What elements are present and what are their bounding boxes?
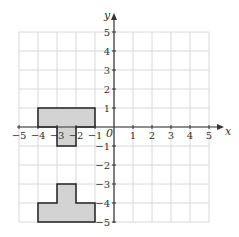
x-tick-label: 5: [206, 130, 212, 141]
x-axis-arrow-icon: [217, 124, 224, 130]
x-tick-label: 3: [168, 130, 174, 141]
origin-label: 0: [106, 127, 113, 140]
shape-B: [38, 184, 95, 222]
y-tick-label: −4: [95, 198, 110, 209]
y-tick-label: 4: [104, 46, 110, 57]
y-tick-label: −5: [95, 217, 110, 228]
x-tick-label: −3: [50, 130, 65, 141]
x-tick-label: −2: [69, 130, 84, 141]
x-tick-label: −5: [12, 130, 27, 141]
coordinate-grid: −5−4−3−2−11234554321−1−2−3−4−5 x y 0: [0, 0, 239, 237]
y-tick-label: 2: [104, 84, 110, 95]
x-tick-label: 4: [187, 130, 193, 141]
x-tick-label: −1: [88, 130, 103, 141]
y-tick-label: 5: [104, 27, 110, 38]
x-tick-label: 1: [130, 130, 136, 141]
y-tick-label: −3: [95, 179, 110, 190]
y-tick-label: −1: [95, 141, 110, 152]
x-tick-label: −4: [31, 130, 46, 141]
y-tick-label: 3: [104, 65, 110, 76]
y-tick-label: −2: [95, 160, 110, 171]
x-tick-label: 2: [149, 130, 155, 141]
y-axis-arrow-icon: [111, 13, 117, 20]
y-axis-label: y: [103, 9, 111, 22]
y-tick-label: 1: [104, 103, 110, 114]
x-axis-label: x: [225, 125, 232, 138]
